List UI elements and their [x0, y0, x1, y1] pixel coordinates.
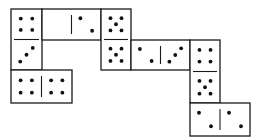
pip [19, 17, 23, 21]
pip [239, 124, 243, 128]
pip [198, 48, 202, 52]
pip [120, 59, 124, 63]
pip [198, 79, 202, 83]
pip [198, 92, 202, 96]
pip [30, 91, 34, 95]
domino-D [131, 40, 190, 70]
pip [209, 60, 213, 64]
pip [31, 46, 35, 50]
pip [227, 111, 231, 115]
pip [18, 60, 22, 64]
pip [120, 16, 124, 20]
pip [109, 59, 113, 63]
pip [120, 47, 124, 51]
pip [19, 91, 23, 95]
pip [209, 92, 213, 96]
domino-F [11, 70, 72, 103]
pip [60, 91, 64, 95]
pip [109, 28, 113, 32]
domino-C [101, 9, 131, 70]
pip [19, 78, 23, 82]
pip [78, 16, 82, 20]
pip [114, 53, 118, 57]
pip [30, 17, 34, 21]
pip [114, 22, 118, 26]
pip [30, 28, 34, 32]
pip [167, 60, 171, 64]
pip [138, 47, 142, 51]
pip [49, 91, 53, 95]
pip [150, 59, 154, 63]
pip [198, 60, 202, 64]
pip [203, 85, 207, 89]
pip [25, 53, 29, 57]
pip [209, 48, 213, 52]
pip [109, 16, 113, 20]
pip [49, 78, 53, 82]
domino-E [190, 40, 220, 103]
pip [109, 47, 113, 51]
pip [179, 46, 183, 50]
domino-G [190, 103, 250, 136]
pip [197, 111, 201, 115]
pip [19, 28, 23, 32]
pip [90, 29, 94, 33]
pip [60, 78, 64, 82]
pip [209, 79, 213, 83]
domino-diagram [0, 0, 261, 140]
pip [120, 28, 124, 32]
pip [209, 124, 213, 128]
pip [30, 78, 34, 82]
pip [173, 53, 177, 57]
domino-A [11, 9, 42, 70]
domino-B [42, 9, 101, 40]
